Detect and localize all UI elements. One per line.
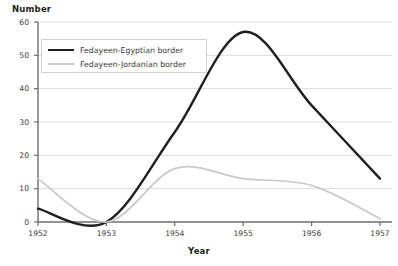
y-tick-label: 50	[7, 51, 29, 60]
legend-swatch-line-icon	[48, 49, 74, 51]
x-tick-label: 1952	[18, 229, 58, 238]
y-tick-label: 20	[7, 151, 29, 160]
x-tick-label: 1953	[86, 229, 126, 238]
legend-item-egyptian: Fedayeen-Egyptian border	[48, 43, 183, 57]
y-tick-label: 40	[7, 84, 29, 93]
x-tick-label: 1956	[292, 229, 332, 238]
y-tick-label: 30	[7, 118, 29, 127]
line-chart: Number 0102030405060 1952195319541955195…	[0, 0, 398, 266]
x-axis-title: Year	[0, 246, 398, 256]
legend-label: Fedayeen-Jordanian border	[80, 60, 186, 69]
x-tick-label: 1954	[155, 229, 195, 238]
chart-legend: Fedayeen-Egyptian border Fedayeen-Jordan…	[41, 39, 207, 73]
y-tick-label: 0	[7, 218, 29, 227]
legend-item-jordanian: Fedayeen-Jordanian border	[48, 57, 186, 71]
x-tick-label: 1957	[360, 229, 398, 238]
y-tick-label: 60	[7, 18, 29, 27]
y-tick-label: 10	[7, 184, 29, 193]
legend-swatch-line-icon	[48, 63, 74, 65]
x-tick-label: 1955	[223, 229, 263, 238]
series-line	[38, 167, 380, 222]
legend-label: Fedayeen-Egyptian border	[80, 46, 183, 55]
